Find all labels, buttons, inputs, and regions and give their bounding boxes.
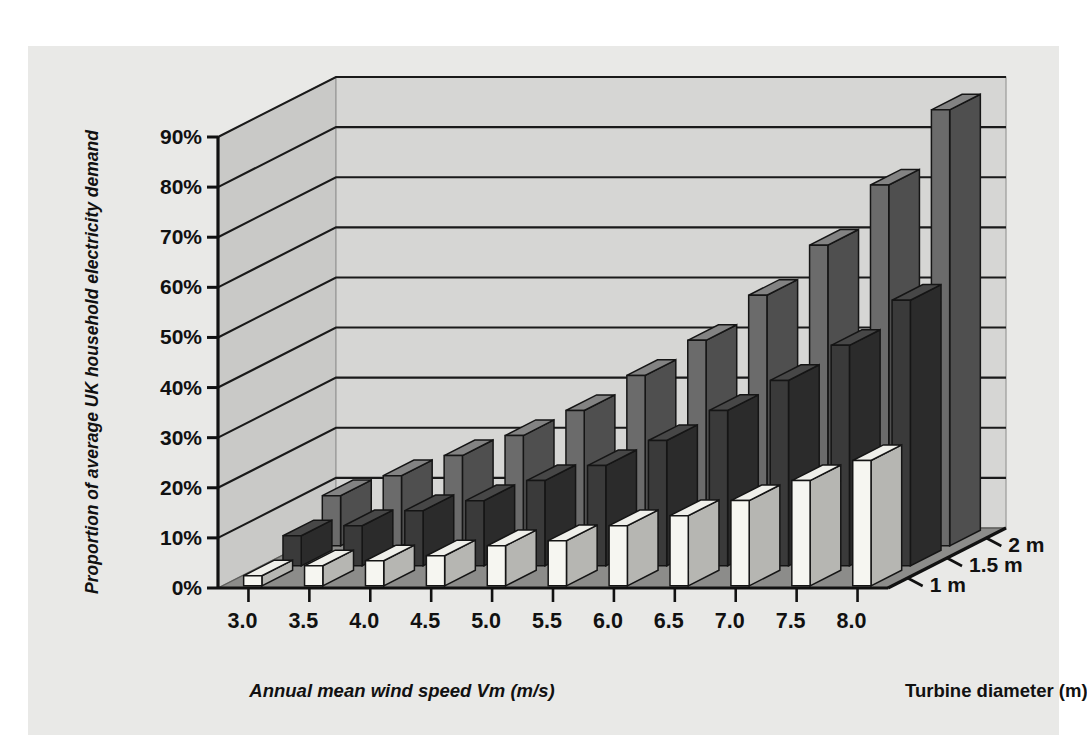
x-tick-label: 3.5 — [288, 609, 318, 633]
bar-front-face — [731, 501, 749, 586]
bar[interactable] — [609, 510, 658, 586]
y-tick-label: 80% — [160, 175, 202, 198]
left-depth-wall — [218, 77, 336, 588]
x-tick-label: 7.0 — [715, 609, 745, 633]
z-axis-tick — [947, 558, 962, 566]
bar-front-face — [487, 546, 505, 586]
chart-canvas: 0%10%20%30%40%50%60%70%80%90%Proportion … — [0, 0, 1087, 754]
z-tick-label: 1 m — [930, 573, 966, 596]
z-tick-label: 1.5 m — [969, 553, 1023, 576]
bar-front-face — [853, 461, 871, 586]
bar-front-face — [548, 541, 566, 586]
bar[interactable] — [731, 485, 780, 586]
bar-front-face — [244, 576, 262, 586]
bar-front-face — [365, 561, 383, 586]
x-tick-label: 7.5 — [776, 609, 806, 633]
bar-side-face — [810, 465, 841, 586]
bar[interactable] — [792, 465, 841, 586]
x-tick-label: 5.0 — [471, 609, 501, 633]
x-tick-label: 6.0 — [593, 609, 623, 633]
bar-front-face — [792, 481, 810, 586]
y-tick-label: 40% — [160, 376, 202, 399]
x-axis-title: Annual mean wind speed Vm (m/s) — [248, 680, 554, 701]
bar-side-face — [950, 94, 981, 546]
y-tick-label: 10% — [160, 526, 202, 549]
y-tick-label: 30% — [160, 426, 202, 449]
bar-side-face — [749, 485, 780, 586]
y-tick-label: 20% — [160, 476, 202, 499]
y-tick-label: 70% — [160, 225, 202, 248]
y-tick-label: 0% — [172, 576, 203, 599]
z-axis-title: Turbine diameter (m) — [905, 680, 1087, 701]
bar-side-face — [910, 285, 941, 566]
y-tick-label: 60% — [160, 275, 202, 298]
bar-front-face — [670, 516, 688, 586]
x-tick-label: 4.5 — [410, 609, 440, 633]
bar-side-face — [871, 445, 902, 586]
x-tick-label: 8.0 — [837, 609, 867, 633]
z-tick-label: 2 m — [1008, 533, 1044, 556]
x-tick-label: 5.5 — [532, 609, 562, 633]
y-axis-title: Proportion of average UK household elect… — [82, 130, 102, 594]
x-tick-label: 4.0 — [349, 609, 379, 633]
z-axis-tick — [908, 578, 923, 586]
bar-front-face — [305, 566, 323, 586]
y-tick-label: 90% — [160, 125, 202, 148]
x-tick-label: 6.5 — [654, 609, 684, 633]
chart-page: 0%10%20%30%40%50%60%70%80%90%Proportion … — [0, 0, 1087, 754]
bar-front-face — [609, 526, 627, 586]
bar[interactable] — [670, 500, 719, 586]
z-axis-tick — [986, 538, 1001, 546]
bar[interactable] — [853, 445, 902, 586]
x-tick-label: 3.0 — [228, 609, 258, 633]
bar-chart-3d: 0%10%20%30%40%50%60%70%80%90%Proportion … — [0, 0, 1087, 754]
y-tick-label: 50% — [160, 325, 202, 348]
bar-front-face — [426, 556, 444, 586]
